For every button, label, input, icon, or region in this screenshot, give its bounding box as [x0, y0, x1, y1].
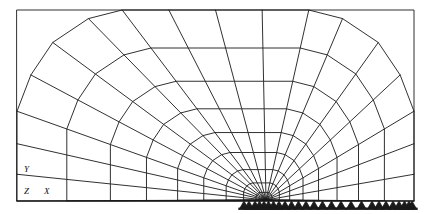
- fem-mesh-figure: Y Z X: [0, 0, 430, 214]
- axis-label-y: Y: [24, 164, 30, 174]
- support-triangle: [347, 201, 355, 208]
- support-triangle: [288, 201, 296, 208]
- mesh-line: [262, 10, 266, 200]
- support-triangle: [319, 201, 327, 208]
- support-triangle: [337, 201, 345, 208]
- support-triangle: [328, 201, 336, 208]
- mesh-line: [17, 10, 414, 201]
- mesh-wireframe: [17, 10, 414, 201]
- mesh-line: [17, 10, 414, 201]
- support-base-plate: [356, 208, 366, 210]
- mesh-line: [266, 10, 309, 200]
- mesh-line: [216, 10, 267, 200]
- support-triangle: [382, 201, 390, 208]
- mesh-line: [266, 75, 400, 200]
- support-base-plate: [326, 208, 336, 210]
- support-base-plate: [239, 208, 249, 210]
- support-triangle: [375, 201, 383, 208]
- support-triangle: [358, 201, 366, 208]
- support-symbols: [239, 201, 417, 210]
- mesh-line: [169, 10, 266, 200]
- support-base-plate: [336, 208, 346, 210]
- mesh-canvas: Y Z X: [0, 0, 430, 214]
- support-triangle: [295, 201, 303, 208]
- support-base-plate: [407, 208, 417, 210]
- support-base-plate: [346, 208, 356, 210]
- support-triangle: [368, 201, 376, 208]
- mesh-line: [53, 42, 266, 200]
- support-triangle: [302, 201, 310, 208]
- mesh-line: [17, 144, 266, 200]
- support-triangle: [310, 201, 318, 208]
- axis-label-z: Z: [24, 186, 30, 196]
- mesh-line: [266, 144, 414, 200]
- axis-label-x: X: [43, 186, 50, 196]
- mesh-line: [122, 10, 266, 200]
- mesh-line: [31, 75, 266, 200]
